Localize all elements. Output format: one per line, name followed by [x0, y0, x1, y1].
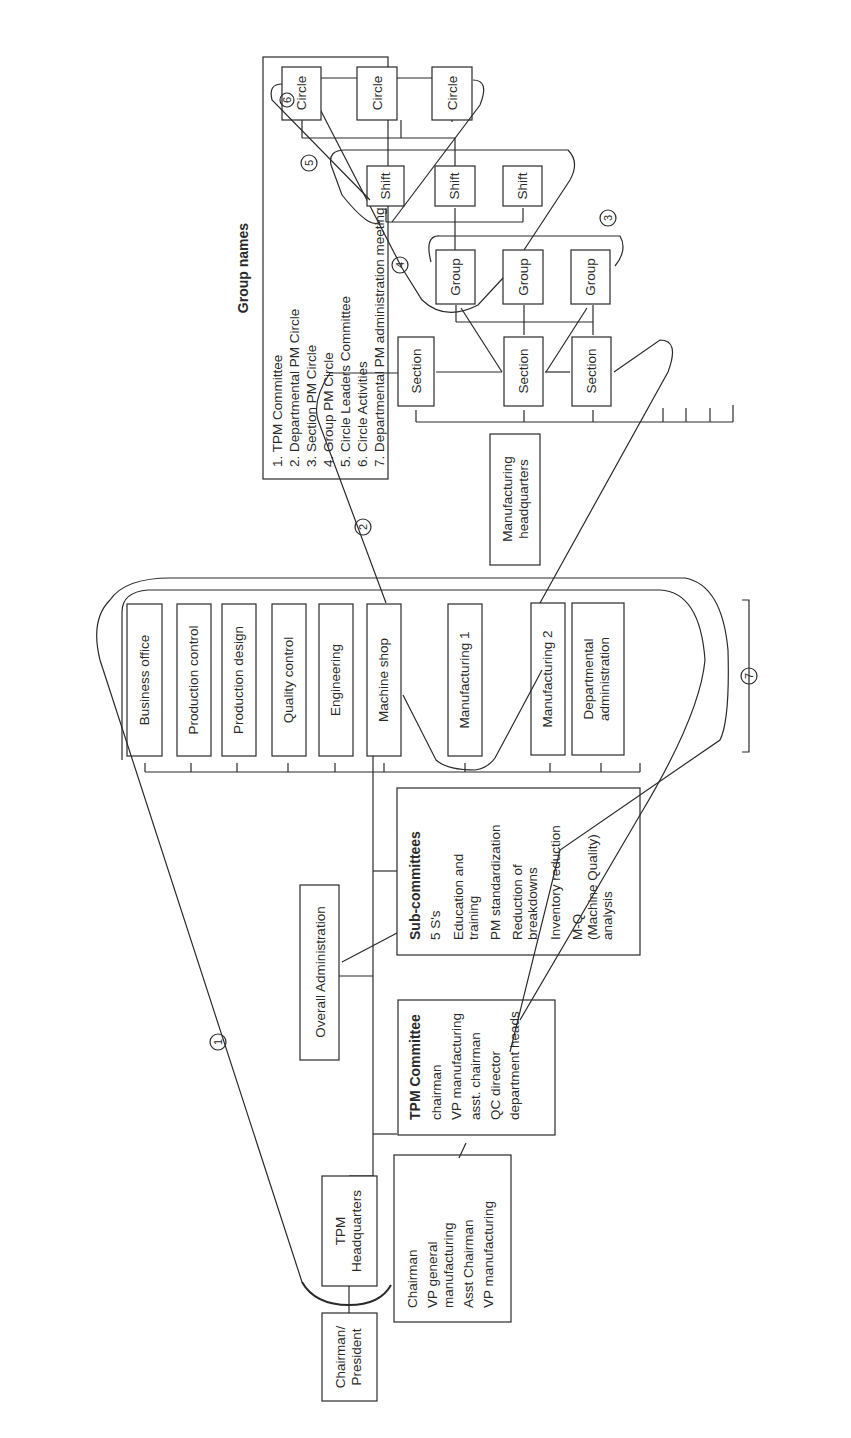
marker-7: 7: [743, 673, 755, 679]
svg-text:training: training: [466, 896, 481, 940]
legend-item-7: 7. Departmental PM administration meetin…: [372, 207, 387, 467]
svg-text:Circle: Circle: [294, 76, 309, 111]
legend-item-2: 2. Departmental PM Circle: [287, 309, 302, 467]
legend-item-6: 6. Circle Activities: [355, 361, 370, 467]
svg-text:Asst Chairman: Asst Chairman: [461, 1219, 476, 1308]
svg-text:breakdowns: breakdowns: [525, 867, 540, 940]
marker-2: 2: [357, 524, 369, 530]
marker-4: 4: [394, 262, 406, 268]
svg-text:Shift: Shift: [515, 172, 530, 199]
legend-title: Group names: [235, 223, 251, 313]
svg-text:Section: Section: [584, 348, 599, 393]
section-2: Section: [504, 337, 543, 406]
department-engineering: Engineering: [319, 604, 353, 756]
section-1: Section: [398, 337, 434, 406]
svg-text:administration: administration: [597, 637, 612, 721]
svg-text:Machine shop: Machine shop: [376, 638, 391, 722]
department-quality-control: Quality control: [272, 604, 306, 756]
svg-text:Engineering: Engineering: [328, 644, 343, 716]
svg-text:Shift: Shift: [447, 172, 462, 199]
manufacturing-headquarters-node: Manufacturing headquarters: [490, 434, 540, 565]
department-production-control: Production control: [177, 604, 211, 756]
svg-text:Group: Group: [516, 258, 531, 296]
overall-administration-node: Overall Administration: [300, 885, 339, 1060]
legend-item-5: 5. Circle Leaders Committee: [338, 296, 353, 467]
svg-text:Section: Section: [516, 348, 531, 393]
svg-text:Production control: Production control: [186, 626, 201, 735]
svg-text:chairman: chairman: [429, 1064, 444, 1120]
svg-text:Headquarters: Headquarters: [349, 1190, 364, 1272]
section-3: Section: [572, 337, 611, 406]
tpm-organization-chart: Group names 1. TPM Committee 2. Departme…: [0, 0, 851, 1438]
department-departmental-administration: Departmental administration: [572, 603, 624, 755]
department-business-office: Business office: [127, 604, 162, 756]
department-manufacturing-2: Manufacturing 2: [531, 603, 565, 755]
svg-text:Manufacturing 1: Manufacturing 1: [457, 632, 472, 729]
svg-text:Reduction of: Reduction of: [510, 864, 525, 940]
group-3: Group: [571, 250, 610, 304]
department-production-design: Production design: [222, 604, 256, 756]
svg-text:Departmental: Departmental: [581, 638, 596, 719]
circle-3: Circle: [432, 67, 472, 120]
shift-1: Shift: [367, 166, 404, 206]
svg-text:Quality control: Quality control: [281, 637, 296, 723]
svg-text:Education and: Education and: [451, 854, 466, 940]
marker-1: 1: [212, 1039, 224, 1045]
svg-text:President: President: [349, 1328, 364, 1385]
svg-text:Sub-committees: Sub-committees: [407, 831, 423, 940]
tpm-committee-box: TPM Committee chairman VP manufacturing …: [398, 1000, 555, 1135]
circle-2: Circle: [357, 67, 397, 120]
svg-text:Group: Group: [583, 258, 598, 296]
group-1: Group: [436, 250, 475, 304]
svg-text:Circle: Circle: [370, 76, 385, 111]
marker-6: 6: [281, 97, 293, 103]
svg-text:Circle: Circle: [445, 76, 460, 111]
svg-text:VP general: VP general: [425, 1241, 440, 1308]
svg-text:Inventory reduction: Inventory reduction: [548, 825, 563, 940]
marker-3: 3: [602, 215, 614, 221]
svg-text:Manufacturing 2: Manufacturing 2: [540, 631, 555, 728]
svg-text:TPM: TPM: [333, 1217, 348, 1246]
svg-text:Chairman/: Chairman/: [333, 1326, 348, 1389]
department-machine-shop: Machine shop: [367, 604, 401, 756]
legend-item-1: 1. TPM Committee: [270, 355, 285, 467]
svg-text:manufacturing: manufacturing: [441, 1222, 456, 1308]
svg-text:Section: Section: [409, 348, 424, 393]
svg-text:QC director: QC director: [488, 1050, 503, 1120]
svg-text:5 S's: 5 S's: [428, 910, 443, 940]
svg-text:M-Q: M-Q: [570, 914, 585, 940]
svg-text:PM standardization: PM standardization: [488, 824, 503, 940]
svg-text:Shift: Shift: [378, 172, 393, 199]
svg-text:department heads: department heads: [507, 1011, 522, 1120]
svg-text:headquarters: headquarters: [516, 459, 531, 539]
svg-text:Manufacturing: Manufacturing: [500, 456, 515, 542]
sub-committees-box: Sub-committees 5 S's Education and train…: [397, 788, 640, 955]
tpm-headquarters-node: TPM Headquarters: [322, 1176, 377, 1286]
svg-text:analysis: analysis: [600, 891, 615, 940]
shift-2: Shift: [435, 166, 475, 206]
hq-members-box: Chairman VP general manufacturing Asst C…: [394, 1155, 511, 1322]
chairman-president-node: Chairman/ President: [322, 1313, 377, 1401]
shift-3: Shift: [503, 166, 542, 206]
group-2: Group: [503, 250, 543, 304]
svg-text:Overall Administration: Overall Administration: [313, 906, 328, 1037]
svg-text:Chairman: Chairman: [405, 1249, 420, 1308]
department-manufacturing-1: Manufacturing 1: [448, 604, 482, 756]
marker-5: 5: [303, 160, 315, 166]
svg-text:Group: Group: [448, 258, 463, 296]
svg-text:TPM Committee: TPM Committee: [407, 1014, 423, 1120]
svg-text:Production design: Production design: [231, 626, 246, 734]
svg-text:VP manufacturing: VP manufacturing: [481, 1201, 496, 1308]
svg-text:VP manufacturing: VP manufacturing: [449, 1013, 464, 1120]
svg-text:Business office: Business office: [137, 635, 152, 726]
svg-text:asst. chairman: asst. chairman: [468, 1032, 483, 1120]
